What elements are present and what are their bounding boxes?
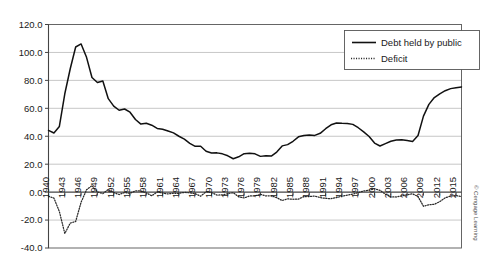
x-axis-tick-label: 1946 [72,177,83,198]
x-axis-tick-label: 2015 [447,177,458,198]
x-axis-tick-label: 1982 [268,177,279,198]
x-axis-tick-label: 1991 [317,177,328,198]
x-axis-tick-label: 1952 [105,177,116,198]
x-axis-tick-label: 1964 [170,177,181,198]
y-axis-tick-label: 100.0 [19,47,43,58]
y-axis-tick-label: -40.0 [21,242,43,253]
x-axis-tick-label: 2009 [414,177,425,198]
x-axis-tick-label: 1976 [235,177,246,198]
x-axis-tick-label: 1994 [333,177,344,198]
y-axis-tick-label: 40.0 [24,131,43,142]
x-axis-tick-label: 1979 [251,177,262,198]
x-axis-tick-label: 1967 [186,177,197,198]
x-axis-tick-label: 1943 [56,177,67,198]
x-axis-tick-label: 2000 [366,177,377,198]
x-axis-tick-label: 1961 [154,177,165,198]
x-axis-tick-label: 2006 [398,177,409,198]
y-axis-tick-label: 80.0 [24,75,43,86]
y-axis-tick-labels: 120.0100.080.060.040.020.00.0-20.0-40.0 [19,19,43,254]
y-axis-tick-label: 120.0 [19,19,43,30]
x-axis-tick-label: 1955 [121,177,132,198]
x-axis-tick-label: 1985 [284,177,295,198]
chart-container: 120.0100.080.060.040.020.00.0-20.0-40.0 … [0,0,488,266]
x-axis-tick-label: 1958 [137,177,148,198]
x-axis-tick-label: 2012 [431,177,442,198]
x-axis-tick-label: 2003 [382,177,393,198]
y-axis-tick-label: 60.0 [24,103,43,114]
x-axis-tick-label: 1970 [203,177,214,198]
x-axis-tick-label: 1988 [300,177,311,198]
legend-label-debt-held-by-public: Debt held by public [381,37,462,48]
chart-legend: Debt held by public Deficit [345,31,480,70]
x-axis-tick-labels: 1940194319461949195219551958196119641967… [40,177,459,198]
debt-and-deficit-line-chart: 120.0100.080.060.040.020.00.0-20.0-40.0 … [0,0,488,266]
x-axis-tick-label: 1949 [88,177,99,198]
x-axis-tick-label: 1940 [40,177,51,198]
legend-label-deficit: Deficit [381,53,408,64]
x-axis-tick-label: 1973 [219,177,230,198]
x-axis-tick-label: 1997 [349,177,360,198]
y-axis-tick-label: -20.0 [21,214,43,225]
y-axis-tick-label: 20.0 [24,159,43,170]
copyright-credit: © Cengage Learning [473,185,479,240]
